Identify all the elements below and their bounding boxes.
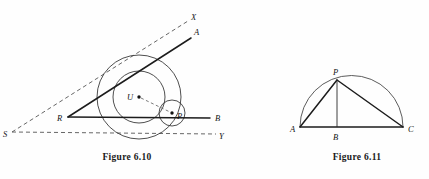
label-P-small: P: [176, 111, 182, 121]
label-C-fig611: C: [408, 124, 414, 134]
figure-sheet: S R X A B Y U P A B C P Figure 6.10 Figu…: [0, 0, 429, 179]
figure-6-11-group: A B C P: [289, 67, 414, 142]
label-B-fig611: B: [333, 132, 338, 142]
label-A: A: [193, 27, 200, 37]
segment-PC: [337, 80, 403, 127]
figure-6-10-caption: Figure 6.10: [82, 152, 172, 162]
label-Y: Y: [219, 131, 225, 141]
label-B: B: [215, 113, 220, 123]
label-R: R: [56, 113, 63, 123]
figure-6-11-caption: Figure 6.11: [312, 152, 402, 162]
figure-6-10-group: S R X A B Y U P: [3, 12, 225, 141]
label-P-fig611: P: [332, 67, 338, 77]
segment-UP: [141, 98, 170, 112]
dashed-ray-SX: [12, 21, 188, 132]
solid-ray-RB: [68, 117, 210, 118]
label-X: X: [190, 12, 197, 22]
label-S: S: [3, 129, 8, 139]
label-U: U: [127, 92, 134, 102]
solid-ray-RA: [68, 38, 191, 117]
point-U-dot: [137, 95, 140, 98]
semicircle-AC: [300, 76, 403, 128]
dashed-ray-SY: [12, 132, 216, 134]
point-P-dot: [170, 111, 173, 114]
label-A-fig611: A: [289, 124, 296, 134]
